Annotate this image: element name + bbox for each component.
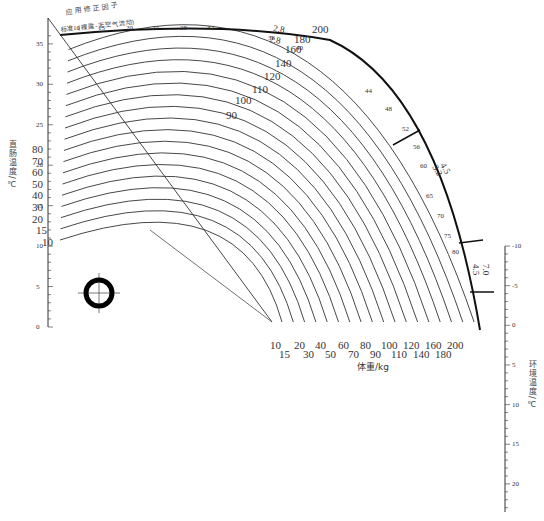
weight-label: 70 — [348, 348, 360, 360]
right-axis-tick-label: 5 — [512, 361, 516, 369]
left-curve-label: 15 — [36, 224, 48, 236]
weight-curve — [66, 95, 407, 322]
weight-label: 15 — [279, 348, 291, 360]
left-curve-label: 30 — [32, 201, 44, 213]
weight-curve — [63, 164, 339, 322]
arc-tick-label: 28 — [180, 24, 188, 32]
arc-tick-label: 60 — [420, 162, 428, 170]
weight-curve — [65, 106, 395, 322]
arc-weight-label: 120 — [264, 70, 281, 82]
right-axis-tick-label: 0 — [512, 321, 516, 329]
weight-label: 140 — [413, 348, 430, 360]
arc-tick-label: 44 — [365, 87, 373, 95]
arc-weight-label: 110 — [252, 83, 269, 95]
weight-label: 110 — [391, 348, 408, 360]
arc-tick-label: 24 — [152, 24, 160, 32]
left-axis-tick-label: 0 — [36, 323, 40, 331]
target-circle-icon — [78, 273, 120, 313]
body-weight-label: 体重/kg — [357, 360, 389, 373]
arc-weight-label: 90 — [226, 109, 238, 121]
left-curve-label: 10 — [42, 236, 54, 248]
arc-tick-label: 48 — [385, 105, 393, 113]
reading-line-lower — [150, 230, 272, 322]
rectal-temperature-scale — [48, 18, 53, 327]
arc-tick-label: 52 — [402, 125, 410, 133]
right-axis-tick-label: -10 — [512, 242, 522, 250]
weight-curve — [64, 141, 362, 322]
left-axis-tick-label: 5 — [36, 283, 40, 291]
weight-label: 30 — [303, 348, 315, 360]
reading-line — [48, 18, 272, 322]
arc-tick-label: 75 — [444, 232, 452, 240]
rectal-temperature-label: 直肠温度/℃ — [6, 140, 17, 190]
weight-label: 180 — [435, 348, 452, 360]
nomogram-canvas: 35302520151050-10-5051015208070605040302… — [0, 0, 544, 521]
arc-tick-label: 32 — [207, 24, 215, 32]
left-axis-tick-label: 35 — [36, 40, 44, 48]
left-axis-tick-label: 30 — [36, 80, 44, 88]
correction-factor-value: 2.8 — [273, 23, 286, 35]
left-curve-label: 80 — [32, 143, 44, 155]
arc-tick-label: 40 — [296, 44, 304, 52]
arc-tick-label: 80 — [452, 248, 460, 256]
arc-tick-label: 36 — [268, 34, 276, 42]
weight-curve — [62, 176, 327, 322]
right-axis-tick-label: 15 — [512, 440, 520, 448]
weight-label: 50 — [325, 348, 337, 360]
arc-weight-label: 100 — [235, 94, 252, 106]
right-axis-tick-label: 10 — [512, 401, 520, 409]
left-axis-tick-label: 25 — [36, 121, 44, 129]
correction-factor-value: 4.5 — [471, 264, 481, 276]
ambient-temperature-scale — [505, 246, 510, 512]
arc-tick-label: 70 — [437, 212, 445, 220]
right-axis-tick-label: -5 — [512, 282, 518, 290]
arc-tick-label: 56 — [413, 143, 421, 151]
arc-weight-label: 200 — [312, 23, 329, 35]
weight-label: 90 — [370, 348, 382, 360]
left-curve-label: 60 — [32, 166, 44, 178]
weight-curve — [62, 188, 316, 322]
ambient-temperature-label: 环境温度/℃ — [526, 360, 537, 410]
left-curve-label: 40 — [32, 189, 44, 201]
arc-tick-label: 65 — [426, 192, 434, 200]
correction-factor-value: 7.0 — [481, 264, 491, 276]
arc-weight-label: 140 — [275, 57, 292, 69]
right-axis-tick-label: 20 — [512, 480, 520, 488]
